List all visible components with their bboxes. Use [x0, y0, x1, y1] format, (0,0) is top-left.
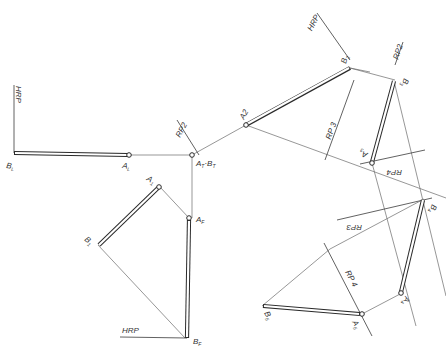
aux-view-2: HRP RP 3 A2 B2 [237, 13, 446, 198]
projection-diagram: HRP BL AL RP2 AT·BT AF HRP BF A1 B1 HRP [0, 0, 446, 351]
hrp-bottom-label: HRP [122, 326, 140, 335]
projector-a1-af [160, 187, 189, 218]
rp4-lower-line [324, 243, 372, 336]
rp3-lower-label: RP3 [346, 223, 362, 232]
rp3-upper-label: RP 3 [324, 121, 339, 141]
point-a-3 [370, 161, 375, 166]
label-a-1: A1 [144, 173, 157, 186]
projector-atbt-a2 [192, 125, 246, 155]
label-b-1: B1 [82, 235, 95, 248]
label-b-3: B3 [398, 77, 410, 88]
rp2-right-label: RP2 [391, 43, 405, 61]
label-a-5: A5 [349, 318, 362, 331]
hrp-left-label: HRP [14, 86, 23, 104]
label-b-2: B2 [339, 54, 351, 65]
projector-b2-b3 [350, 68, 395, 80]
left-view: HRP BL AL [6, 85, 192, 172]
rp4-upper-label: RP4 [386, 168, 402, 177]
hrp-bottom-line [120, 337, 187, 338]
label-b-f: BF [193, 337, 202, 347]
label-a-f: AF [195, 215, 205, 225]
projector-a4-a5 [362, 293, 402, 314]
label-a-3: A3 [358, 147, 370, 160]
point-a-l [127, 153, 132, 158]
hrp-top-line [317, 13, 350, 60]
label-at-bt: AT·BT [195, 159, 216, 169]
aux-view-5: RP 4 A5 B5 [261, 243, 372, 336]
rp3-upper-line [325, 80, 354, 160]
projector-a2-a3 [246, 125, 446, 198]
point-a-1 [157, 185, 162, 190]
point-a-5 [360, 312, 365, 317]
label-a-l: AL [121, 161, 132, 172]
label-b-4: B4 [426, 203, 438, 214]
point-a-f [187, 216, 192, 221]
label-a-2: A2 [237, 108, 250, 122]
projector-b5 [262, 249, 330, 306]
point-a-4 [399, 291, 404, 296]
label-b-5: B5 [261, 310, 274, 322]
projector-b4-b5 [330, 199, 424, 249]
projector-b1-bf [98, 245, 185, 338]
projector-b3-b4 [394, 81, 446, 296]
point-at-bt [190, 153, 195, 158]
point-a-2 [244, 123, 249, 128]
label-b-l: BL [6, 161, 16, 172]
aux-view-4: RP3 A4 B4 [262, 198, 439, 314]
